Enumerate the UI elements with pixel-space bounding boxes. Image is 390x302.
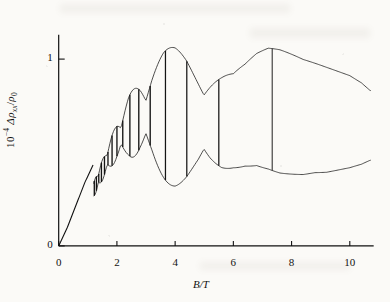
x-axis-label: B/T	[193, 278, 209, 290]
upper-envelope	[94, 47, 371, 183]
x-tick-label: 0	[45, 256, 73, 268]
figure-canvas: 10−4 Δρxx/ρ0 B/T 0246810 01	[0, 0, 390, 302]
x-tick-label: 8	[278, 256, 306, 268]
y-tick-label: 1	[33, 51, 53, 63]
x-tick-label: 4	[161, 256, 189, 268]
y-axis-label: 10−4 Δρxx/ρ0	[2, 92, 19, 148]
x-tick-label: 10	[336, 256, 364, 268]
plot-axes	[59, 35, 374, 246]
x-tick-label: 6	[219, 256, 247, 268]
data-curve	[59, 47, 371, 245]
lower-envelope	[94, 134, 371, 196]
x-tick-label: 2	[103, 256, 131, 268]
x-axis-label-text: B/T	[193, 278, 209, 290]
y-axis-label-text: 10−4 Δρxx/ρ0	[4, 92, 16, 148]
y-tick-label: 0	[33, 238, 53, 250]
rising-baseline-segment	[59, 165, 93, 246]
